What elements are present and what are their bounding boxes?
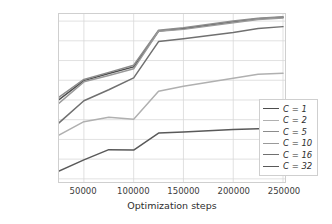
x-tick-label: 250000 [268, 186, 300, 196]
x-tick-label: 50000 [70, 186, 97, 196]
legend-item-2[interactable]: C = 2 [263, 115, 312, 127]
plot-area [58, 13, 286, 183]
series-line-5 [59, 128, 283, 171]
legend-item-32[interactable]: C = 32 [263, 161, 312, 173]
legend-label: C = 5 [283, 127, 307, 137]
legend-label: C = 2 [283, 115, 307, 125]
legend-label: C = 32 [283, 161, 312, 171]
legend-item-1[interactable]: C = 1 [263, 103, 312, 115]
legend-label: C = 1 [283, 104, 307, 114]
legend-item-10[interactable]: C = 10 [263, 138, 312, 150]
legend-item-16[interactable]: C = 16 [263, 149, 312, 161]
legend-label: C = 16 [283, 150, 312, 160]
legend-swatch-icon [263, 154, 279, 155]
legend-label: C = 10 [283, 138, 312, 148]
legend: C = 1C = 2C = 5C = 10C = 16C = 32 [259, 99, 318, 176]
legend-swatch-icon [263, 108, 279, 109]
x-tick-label: 200000 [218, 186, 250, 196]
legend-swatch-icon [263, 131, 279, 132]
x-tick-label: 100000 [117, 186, 149, 196]
chart-figure: Avg. train ELBO −1750−2000−2250−2500−275… [0, 0, 332, 224]
x-axis-title: Optimization steps [127, 200, 216, 211]
legend-swatch-icon [263, 120, 279, 121]
series-lines [59, 14, 285, 182]
legend-item-5[interactable]: C = 5 [263, 126, 312, 138]
legend-swatch-icon [263, 143, 279, 144]
legend-swatch-icon [263, 166, 279, 167]
series-line-2 [59, 17, 283, 97]
series-line-4 [59, 27, 283, 123]
x-tick-label: 150000 [167, 186, 199, 196]
series-line-1 [59, 73, 283, 135]
